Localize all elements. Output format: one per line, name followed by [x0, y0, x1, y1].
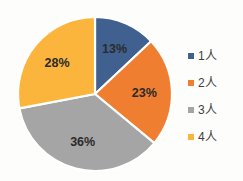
- legend-item-label: 3人: [198, 104, 217, 116]
- pie-chart-plot-area: 13%23%36%28%: [0, 0, 186, 181]
- pie-chart: 13%23%36%28% 1人 2人 3人 4人: [0, 0, 243, 181]
- pie-slice-data-label: 13%: [102, 42, 127, 56]
- square-marker-icon: [188, 53, 194, 59]
- legend-item-2[interactable]: 2人: [188, 69, 243, 96]
- pie-slice-data-label: 36%: [70, 135, 95, 149]
- legend-item-4[interactable]: 4人: [188, 123, 243, 150]
- legend-item-label: 1人: [198, 50, 217, 62]
- square-marker-icon: [188, 107, 194, 113]
- legend-item-1[interactable]: 1人: [188, 42, 243, 69]
- square-marker-icon: [188, 80, 194, 86]
- square-marker-icon: [188, 134, 194, 140]
- chart-legend: 1人 2人 3人 4人: [188, 42, 243, 150]
- legend-item-label: 4人: [198, 131, 217, 143]
- pie-slice-data-label: 23%: [132, 86, 157, 100]
- pie-slice-data-label: 28%: [44, 56, 69, 70]
- legend-item-label: 2人: [198, 77, 217, 89]
- legend-item-3[interactable]: 3人: [188, 96, 243, 123]
